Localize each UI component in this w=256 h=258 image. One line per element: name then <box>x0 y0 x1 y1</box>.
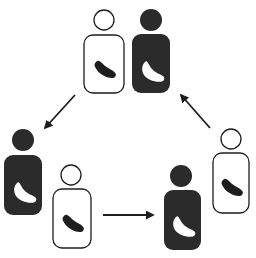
group-top <box>84 9 170 93</box>
person-icon-dark <box>164 165 201 250</box>
person-icon-white <box>84 10 124 93</box>
person-icon-white <box>213 129 249 213</box>
person-icon-dark <box>4 129 42 215</box>
arrow-top-to-left <box>45 95 75 128</box>
person-icon-white <box>53 165 91 248</box>
person-icon-dark <box>132 9 170 93</box>
cycle-diagram <box>0 0 256 258</box>
group-bottom-left <box>4 129 91 248</box>
arrow-right-to-top <box>181 95 210 128</box>
group-bottom-right <box>164 129 249 250</box>
